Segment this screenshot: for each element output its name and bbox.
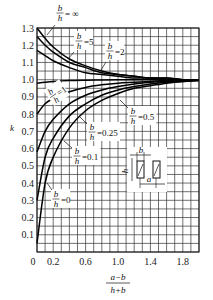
x-tick-label: 1.8 <box>177 256 190 267</box>
x-tick-label: 1.0 <box>112 256 125 267</box>
chart: 0.10.20.30.40.50.60.70.80.91.01.11.21.30… <box>0 0 213 300</box>
label-numerator: b <box>90 122 95 132</box>
y-tick-label: 0.1 <box>22 229 35 240</box>
label-denominator: h <box>54 199 59 209</box>
label-value: =5 <box>84 37 94 47</box>
y-tick-label: 1.0 <box>22 74 35 85</box>
label-numerator: b <box>108 41 113 51</box>
x-tick-label: 1.4 <box>144 256 157 267</box>
x-tick-label: 0 <box>31 256 36 267</box>
inset-diagram: bha <box>120 145 167 192</box>
curve-label: bh= ∞ <box>47 3 79 35</box>
y-tick-label: 0.2 <box>22 212 35 223</box>
label-numerator: b <box>54 189 59 199</box>
y-tick-label: 0.7 <box>22 126 35 137</box>
curve-label: bh=0.5 <box>120 100 156 126</box>
label-denominator: h <box>90 132 95 142</box>
label-value: = ∞ <box>65 9 79 19</box>
dim-a-label: a <box>147 174 152 184</box>
x-axis-label-numerator: a−b <box>110 272 126 282</box>
y-tick-label: 0.4 <box>22 178 35 189</box>
label-value: =0.1 <box>82 152 98 162</box>
label-numerator: b <box>77 31 82 41</box>
curve-label: bh=0 <box>47 183 71 209</box>
x-tick-label: 0.6 <box>79 256 92 267</box>
curve-label: bh=0.25 <box>80 117 120 142</box>
y-tick-label: 0.6 <box>22 143 35 154</box>
label-value: =0 <box>61 195 71 205</box>
x-tick-label: 0.2 <box>47 256 60 267</box>
y-tick-label: 0.3 <box>22 195 35 206</box>
leader-line <box>64 141 72 148</box>
label-value: =2 <box>115 47 125 57</box>
axes: 0.10.20.30.40.50.60.70.80.91.01.11.21.30… <box>10 23 199 296</box>
label-numerator: b <box>58 3 63 13</box>
label-denominator: h <box>131 116 136 126</box>
label-denominator: h <box>108 51 113 61</box>
leader-line <box>47 183 52 190</box>
dim-b-label: b <box>139 145 144 155</box>
y-tick-label: 1.3 <box>22 23 35 34</box>
y-tick-label: 1.1 <box>22 57 35 68</box>
label-denominator: h <box>77 41 82 51</box>
inset-bg <box>127 147 167 192</box>
leader-line <box>47 25 55 35</box>
x-axis-label-denominator: h+b <box>110 285 126 295</box>
label-numerator: b <box>75 146 80 156</box>
dim-h-label: h <box>120 168 130 173</box>
label-value: =0.25 <box>97 128 118 138</box>
y-tick-label: 0.8 <box>22 109 35 120</box>
y-tick-label: 1.2 <box>22 40 35 51</box>
y-tick-label: 0.5 <box>22 160 35 171</box>
label-denominator: h <box>58 13 63 23</box>
leader-line <box>120 100 128 108</box>
leader-line <box>68 52 74 59</box>
y-tick-label: 0.9 <box>22 91 35 102</box>
label-numerator: b <box>131 106 136 116</box>
y-axis-label: k <box>10 123 15 133</box>
label-denominator: h <box>75 156 80 166</box>
label-value: =0.5 <box>138 112 155 122</box>
